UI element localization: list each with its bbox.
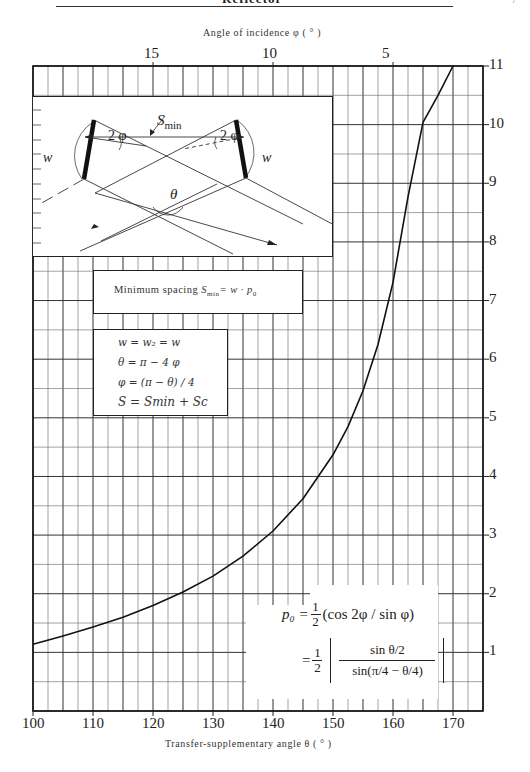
x-tick-label: 110 — [82, 715, 104, 732]
minimum-spacing-box: Minimum spacing Smin= w · p0 — [93, 270, 303, 314]
x-tick-label: 170 — [442, 715, 465, 732]
label-2phi-left: 2 φ — [108, 128, 127, 144]
p0-frac-2-den: 2 — [314, 661, 321, 675]
y-tick-label: 7 — [489, 291, 497, 308]
p0-line-2-eq: = — [302, 652, 310, 669]
p0-inner-den: sin(π/4 − θ/4) — [352, 661, 423, 681]
p0-lhs: p₀ = — [282, 606, 309, 623]
y-tick-label: 2 — [489, 584, 497, 601]
p0-bracket: sin θ/2 sin(π/4 − θ/4) — [330, 638, 444, 683]
minimum-spacing-text: Minimum spacing Smin= w · p0 — [114, 284, 257, 298]
min-spacing-rest: = w · p — [219, 284, 252, 295]
smin-sub: min — [165, 119, 182, 131]
p0-formula: p₀ = 1 2 (cos 2φ / sin φ) = 1 2 sin θ/2 … — [246, 590, 436, 700]
smin-s: S — [157, 112, 165, 128]
relation-1: w = w₂ = w — [118, 331, 180, 353]
y-tick-label: 3 — [489, 525, 497, 542]
x-tick-label: 120 — [142, 715, 165, 732]
y-tick-label: 4 — [489, 466, 497, 483]
y-tick-label: 8 — [489, 232, 497, 249]
relation-4: S = Smin + Sc — [118, 391, 208, 413]
y-tick-label: 6 — [489, 349, 497, 366]
p0-line-2: = 1 2 sin θ/2 sin(π/4 − θ/4) — [302, 638, 444, 683]
min-spacing-sub: min — [207, 290, 219, 298]
p0-frac-2: 1 2 — [312, 646, 322, 675]
y-tick-label: 10 — [489, 115, 504, 132]
relation-2: θ = π − 4 φ — [118, 351, 180, 373]
p0-frac-2-num: 1 — [314, 646, 321, 660]
reflector-diagram — [33, 96, 333, 257]
p0-line-1: p₀ = 1 2 (cos 2φ / sin φ) — [282, 600, 414, 629]
p0-frac-1-den: 2 — [312, 615, 319, 629]
min-spacing-label: Minimum spacing — [114, 284, 201, 295]
label-theta: θ — [170, 186, 177, 203]
y-tick-label: 9 — [489, 173, 497, 190]
relations-box: w = w₂ = w θ = π − 4 φ φ = (π − θ) / 4 S… — [93, 329, 228, 416]
p0-frac-1-num: 1 — [312, 600, 319, 614]
p0-inner-num: sin θ/2 — [370, 640, 405, 660]
x-tick-label: 160 — [382, 715, 405, 732]
label-2phi-right: 2 φ — [220, 128, 239, 144]
relation-3: φ = (π − θ) / 4 — [118, 371, 195, 393]
x-axis-title: Transfer-supplementary angle θ ( ° ) — [165, 738, 332, 749]
x-tick-label: 150 — [322, 715, 345, 732]
p0-frac-1: 1 2 — [311, 600, 321, 629]
y-tick-label: 5 — [489, 408, 497, 425]
label-smin: Smin — [157, 112, 182, 131]
p0-line-1-rest: (cos 2φ / sin φ) — [323, 606, 414, 623]
x-tick-label: 100 — [22, 715, 45, 732]
label-w-right: w — [262, 150, 271, 166]
x-tick-label: 140 — [262, 715, 285, 732]
label-w-left: w — [43, 150, 52, 166]
left-panel — [84, 120, 94, 179]
x-tick-label: 130 — [202, 715, 225, 732]
min-spacing-p-sub: 0 — [253, 290, 257, 298]
y-tick-label: 11 — [489, 56, 503, 73]
y-tick-label: 1 — [489, 642, 497, 659]
